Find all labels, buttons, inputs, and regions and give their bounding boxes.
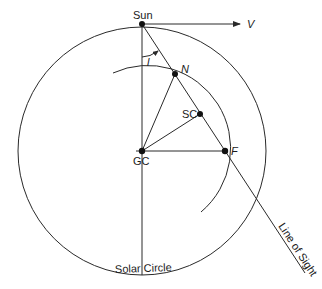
far-point — [222, 148, 228, 154]
subcentral-point-label: SC — [182, 108, 197, 120]
galactic-center-point — [139, 148, 145, 154]
sun-label: Sun — [133, 9, 153, 21]
far-point-label: F — [231, 145, 239, 157]
solar-circle-label: Solar Circle — [115, 261, 172, 275]
near-point-label: N — [181, 63, 189, 75]
longitude-angle-arc-icon — [142, 51, 158, 57]
near-point — [172, 71, 178, 77]
velocity-label: V — [247, 18, 256, 30]
inner-orbit-arc — [113, 65, 231, 212]
line-of-sight-label: Line of Sight — [276, 221, 320, 279]
galactic-center-label: GC — [133, 155, 150, 167]
gc-to-n-line — [142, 74, 175, 151]
galactic-geometry-diagram: Sun V l N SC GC F Solar Circle Line of S… — [0, 0, 322, 289]
subcentral-point — [197, 111, 203, 117]
longitude-label: l — [147, 56, 150, 68]
sun-point — [139, 21, 145, 27]
